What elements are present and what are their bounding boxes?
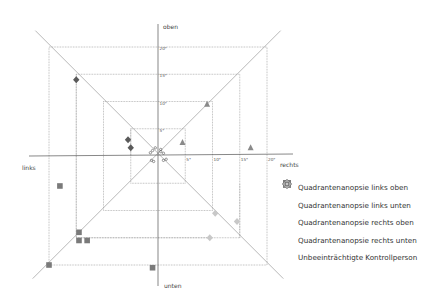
legend: Quadrantenanopsie links oben Quadrantena… <box>282 179 442 267</box>
square-marker <box>84 238 90 244</box>
open-circle-icon <box>282 252 294 264</box>
x-axis <box>29 154 293 156</box>
legend-label: Quadrantenanopsie links unten <box>298 201 411 210</box>
legend-label: Unbeeinträchtigte Kontrollperson <box>298 253 417 262</box>
diamond-marker <box>125 136 131 143</box>
triangle-marker <box>180 139 186 145</box>
diamond-marker <box>234 218 240 225</box>
square-marker <box>76 230 82 236</box>
diamond-marker <box>73 76 79 83</box>
open-circle-marker <box>151 149 153 151</box>
legend-item-rechts-oben: Quadrantenanopsie rechts oben <box>282 214 442 232</box>
tick-labels: 5°5°10°10°15°15°20°20° <box>160 46 276 162</box>
axis-label-left: links <box>22 164 36 171</box>
square-marker <box>46 262 52 268</box>
y-tick-label: 20° <box>160 46 167 51</box>
legend-label: Quadrantenanopsie rechts oben <box>298 218 414 227</box>
axes <box>29 24 293 286</box>
triangle-icon <box>282 217 294 229</box>
axis-label-bottom: unten <box>164 282 182 289</box>
triangle-marker <box>248 144 254 150</box>
data-points <box>46 76 253 270</box>
diamond-marker <box>212 210 218 217</box>
diamond-marker <box>128 144 134 151</box>
square-marker <box>76 238 82 244</box>
axis-label-top: oben <box>163 23 178 30</box>
x-tick-label: 15° <box>241 157 248 162</box>
light-diamond-icon <box>282 234 294 246</box>
legend-item-rechts-unten: Quadrantenanopsie rechts unten <box>282 232 442 250</box>
open-circle-marker <box>162 152 164 154</box>
open-circle-marker <box>154 147 156 149</box>
x-tick-label: 20° <box>268 157 275 162</box>
x-tick-label: 5° <box>186 157 191 162</box>
square-icon <box>282 199 294 211</box>
open-circle-marker <box>165 158 167 160</box>
legend-item-kontrollperson: Unbeeinträchtigte Kontrollperson <box>282 249 442 267</box>
square-marker <box>57 183 63 189</box>
legend-label: Quadrantenanopsie links oben <box>298 183 408 192</box>
diamond-marker <box>207 234 213 241</box>
legend-item-links-oben: Quadrantenanopsie links oben <box>282 179 442 197</box>
y-tick-label: 15° <box>160 73 167 78</box>
x-tick-label: 10° <box>214 157 221 162</box>
legend-item-links-unten: Quadrantenanopsie links unten <box>282 197 442 215</box>
square-marker <box>150 265 156 271</box>
y-tick-label: 5° <box>160 128 165 133</box>
open-circle-marker <box>152 160 154 162</box>
chart: 5°5°10°10°15°15°20°20° oben unten links … <box>0 0 445 302</box>
y-tick-label: 10° <box>160 101 167 106</box>
axis-label-right: rechts <box>280 161 299 168</box>
open-circle-marker <box>149 152 151 154</box>
legend-label: Quadrantenanopsie rechts unten <box>298 236 417 245</box>
open-circle-marker <box>162 159 164 161</box>
